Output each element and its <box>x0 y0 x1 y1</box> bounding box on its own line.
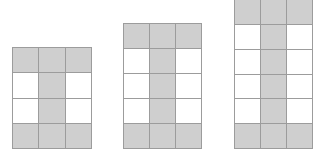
empty-square <box>235 99 260 123</box>
empty-square <box>176 49 201 73</box>
empty-square <box>235 75 260 99</box>
shaded-square <box>13 124 38 148</box>
shaded-square <box>176 124 201 148</box>
empty-square <box>124 99 149 123</box>
empty-square <box>124 74 149 98</box>
shaded-square <box>261 99 286 123</box>
i-figure-2 <box>123 23 202 149</box>
shaded-square <box>261 50 286 74</box>
shaded-square <box>287 0 312 24</box>
empty-square <box>287 99 312 123</box>
shaded-square <box>13 48 38 72</box>
i-figure-1 <box>12 47 92 149</box>
shaded-square <box>66 48 91 72</box>
shaded-square <box>235 124 260 148</box>
empty-square <box>176 74 201 98</box>
shaded-square <box>39 73 64 97</box>
shaded-square <box>287 124 312 148</box>
empty-square <box>235 50 260 74</box>
shaded-square <box>150 49 175 73</box>
shaded-square <box>124 24 149 48</box>
shaded-square <box>150 124 175 148</box>
shaded-square <box>150 99 175 123</box>
empty-square <box>176 99 201 123</box>
shaded-square <box>261 25 286 49</box>
shaded-square <box>124 124 149 148</box>
empty-square <box>66 99 91 123</box>
shaded-square <box>261 0 286 24</box>
empty-square <box>235 25 260 49</box>
shaded-square <box>150 74 175 98</box>
empty-square <box>124 49 149 73</box>
i-figure-3 <box>234 0 313 149</box>
shaded-square <box>176 24 201 48</box>
shaded-square <box>261 124 286 148</box>
empty-square <box>287 25 312 49</box>
empty-square <box>13 73 38 97</box>
shaded-square <box>150 24 175 48</box>
shaded-square <box>39 99 64 123</box>
empty-square <box>66 73 91 97</box>
empty-square <box>287 50 312 74</box>
shaded-square <box>39 124 64 148</box>
shaded-square <box>66 124 91 148</box>
shaded-square <box>261 75 286 99</box>
shaded-square <box>39 48 64 72</box>
empty-square <box>13 99 38 123</box>
empty-square <box>287 75 312 99</box>
shaded-square <box>235 0 260 24</box>
